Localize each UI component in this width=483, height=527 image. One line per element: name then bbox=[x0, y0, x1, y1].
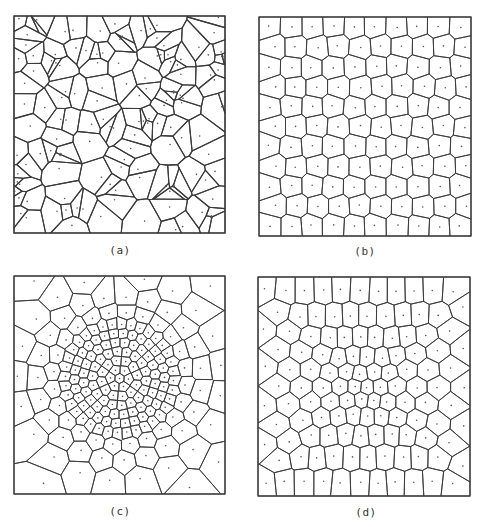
voronoi-cell bbox=[360, 445, 377, 471]
seed-point bbox=[126, 352, 128, 354]
voronoi-cell bbox=[324, 444, 343, 471]
seed-point bbox=[401, 85, 403, 87]
seed-point bbox=[354, 225, 356, 227]
seed-point bbox=[439, 186, 441, 188]
seed-point bbox=[132, 411, 134, 413]
seed-point bbox=[160, 429, 162, 431]
voronoi-cell bbox=[119, 381, 130, 391]
seed-point bbox=[294, 86, 296, 88]
seed-point bbox=[340, 386, 342, 388]
seed-point bbox=[68, 419, 70, 421]
seed-point bbox=[40, 399, 42, 401]
seed-point bbox=[289, 369, 291, 371]
seed-point bbox=[310, 67, 312, 69]
seed-point bbox=[103, 119, 105, 121]
seed-point bbox=[346, 371, 348, 373]
seed-point bbox=[199, 135, 201, 137]
voronoi-cells bbox=[258, 277, 470, 496]
voronoi-cell bbox=[129, 153, 160, 176]
voronoi-cell bbox=[394, 445, 412, 471]
seed-point bbox=[405, 434, 407, 436]
voronoi-cell bbox=[258, 464, 277, 496]
seed-point bbox=[132, 335, 134, 337]
voronoi-cell bbox=[149, 313, 170, 333]
voronoi-cell bbox=[63, 38, 84, 65]
seed-point bbox=[208, 153, 210, 155]
voronoi-cell bbox=[57, 371, 71, 381]
voronoi-cell bbox=[388, 346, 406, 367]
seed-point bbox=[90, 423, 92, 425]
voronoi-cell bbox=[198, 310, 225, 352]
voronoi-cell bbox=[63, 276, 105, 295]
seed-point bbox=[450, 405, 452, 407]
voronoi-cell bbox=[21, 63, 50, 88]
seed-point bbox=[170, 61, 172, 63]
seed-point bbox=[66, 366, 68, 368]
seed-point bbox=[112, 404, 114, 406]
seed-point bbox=[163, 386, 165, 388]
seed-point bbox=[65, 385, 67, 387]
seed-point bbox=[317, 206, 319, 208]
seed-point bbox=[211, 215, 213, 217]
seed-point bbox=[264, 288, 266, 290]
voronoi-cell bbox=[98, 41, 116, 62]
seed-point bbox=[104, 335, 106, 337]
seed-point bbox=[18, 18, 20, 20]
voronoi-cell bbox=[49, 56, 80, 82]
seed-point bbox=[172, 290, 174, 292]
seed-point bbox=[299, 316, 301, 318]
seed-point bbox=[101, 381, 103, 383]
seed-point bbox=[323, 289, 325, 291]
seed-point bbox=[99, 30, 101, 32]
seed-point bbox=[181, 430, 183, 432]
voronoi-panel-b bbox=[259, 17, 471, 236]
seed-point bbox=[214, 171, 216, 173]
voronoi-cell bbox=[164, 468, 221, 494]
seed-point bbox=[61, 97, 63, 99]
seed-point bbox=[458, 225, 460, 227]
seed-point bbox=[144, 425, 146, 427]
seed-point bbox=[62, 437, 64, 439]
seed-point bbox=[25, 164, 27, 166]
voronoi-cell bbox=[369, 469, 388, 497]
seed-point bbox=[115, 423, 117, 425]
seed-point bbox=[82, 305, 84, 307]
seed-point bbox=[195, 310, 197, 312]
seed-point bbox=[147, 122, 149, 124]
seed-point bbox=[24, 103, 26, 105]
seed-point bbox=[172, 185, 174, 187]
seed-point bbox=[101, 87, 103, 89]
voronoi-cell bbox=[441, 469, 470, 496]
seed-point bbox=[291, 67, 293, 69]
seed-point bbox=[55, 54, 57, 56]
seed-point bbox=[160, 54, 162, 56]
voronoi-cell bbox=[438, 391, 470, 419]
seed-point bbox=[92, 375, 94, 377]
voronoi-cell bbox=[14, 178, 24, 187]
seed-point bbox=[460, 65, 462, 67]
seed-point bbox=[74, 379, 76, 381]
seed-point bbox=[333, 67, 335, 69]
seed-point bbox=[96, 100, 98, 102]
seed-point bbox=[367, 415, 369, 417]
seed-point bbox=[396, 106, 398, 108]
panel-caption-d: (d) bbox=[355, 506, 376, 519]
seed-point bbox=[366, 456, 368, 458]
seed-point bbox=[180, 74, 182, 76]
seed-point bbox=[19, 184, 21, 186]
seed-point bbox=[124, 422, 126, 424]
voronoi-cell bbox=[455, 154, 471, 178]
seed-point bbox=[154, 383, 156, 385]
voronoi-cell bbox=[178, 434, 211, 469]
seed-point bbox=[85, 391, 87, 393]
seed-point bbox=[165, 445, 167, 447]
seed-point bbox=[421, 165, 423, 167]
voronoi-cell bbox=[123, 276, 162, 292]
seed-point bbox=[350, 315, 352, 317]
seed-point bbox=[304, 290, 306, 292]
voronoi-cell bbox=[427, 17, 450, 38]
seed-point bbox=[416, 387, 418, 389]
seed-point bbox=[107, 430, 109, 432]
seed-point bbox=[431, 481, 433, 483]
seed-point bbox=[51, 60, 53, 62]
